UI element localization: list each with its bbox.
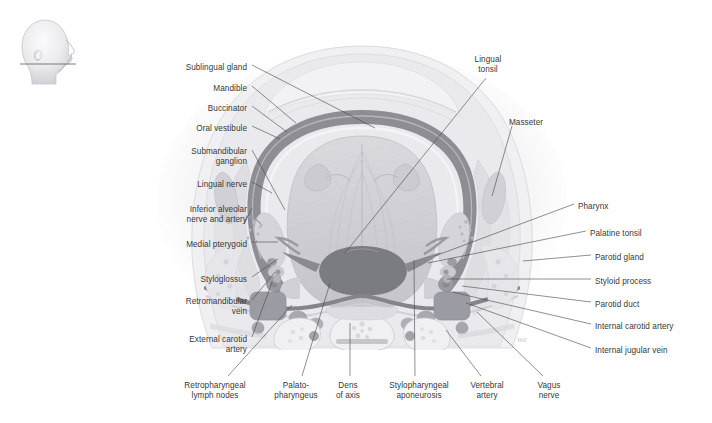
label-line: Palato- (274, 381, 317, 391)
leader-line-mandible (252, 86, 296, 123)
label-line: lymph nodes (184, 391, 245, 401)
leader-line-oral-vestibule (252, 126, 280, 139)
label-line: nerve and artery (187, 215, 247, 225)
label-inferior-alveolar-nerve-artery[interactable]: Inferior alveolarnerve and artery (187, 205, 247, 226)
label-sublingual-gland[interactable]: Sublingual gland (186, 63, 247, 73)
label-line: artery (470, 391, 503, 401)
label-line: tonsil (475, 65, 502, 75)
leader-line-lingual-tonsil (345, 78, 486, 253)
label-line: aponeurosis (389, 391, 448, 401)
leader-line-styloglossus (252, 259, 278, 277)
label-line: Styloid process (595, 277, 651, 287)
label-parotid-duct[interactable]: Parotid duct (595, 300, 639, 310)
label-line: ganglion (191, 157, 247, 167)
label-line: Styloglossus (200, 275, 247, 285)
leader-line-lingual-nerve (252, 182, 272, 193)
label-retropharyngeal-lymph-nodes[interactable]: Retropharyngeallymph nodes (184, 381, 245, 402)
label-lingual-tonsil[interactable]: Lingualtonsil (475, 55, 502, 76)
label-line: vein (186, 307, 247, 317)
leader-line-retromandibular-vein (252, 272, 275, 300)
label-internal-carotid-artery[interactable]: Internal carotid artery (595, 322, 674, 332)
label-line: artery (189, 345, 247, 355)
label-masseter[interactable]: Masseter (509, 118, 543, 128)
leader-line-pharynx (435, 204, 574, 256)
label-line: Masseter (509, 118, 543, 128)
leader-line-submandibular-ganglion (252, 150, 285, 210)
leader-line-external-carotid-artery (252, 282, 272, 337)
label-line: Pharynx (578, 202, 608, 212)
label-buccinator[interactable]: Buccinator (208, 104, 247, 114)
label-line: Dens (336, 381, 360, 391)
label-line: of axis (336, 391, 360, 401)
label-line: Submandibular (191, 147, 247, 157)
label-line: Palatine tonsil (590, 229, 642, 239)
anatomy-figure: Voll Sublingual glandMandibleBuccinatorO… (0, 0, 712, 423)
label-palatopharyngeus[interactable]: Palato-pharyngeus (274, 381, 317, 402)
label-line: Buccinator (208, 104, 247, 114)
label-line: pharyngeus (274, 391, 317, 401)
label-line: Parotid gland (595, 253, 644, 263)
label-oral-vestibule[interactable]: Oral vestibule (196, 124, 247, 134)
label-line: Mandible (213, 84, 247, 94)
leader-line-sublingual-gland (252, 65, 375, 128)
label-line: Stylopharyngeal (389, 381, 448, 391)
leader-line-palatopharyngeus (302, 283, 330, 376)
label-lingual-nerve[interactable]: Lingual nerve (197, 180, 247, 190)
leader-line-palatine-tonsil (428, 231, 586, 263)
label-parotid-gland[interactable]: Parotid gland (595, 253, 644, 263)
label-stylopharyngeal-aponeurosis[interactable]: Stylopharyngealaponeurosis (389, 381, 448, 402)
label-mandible[interactable]: Mandible (213, 84, 247, 94)
label-line: Inferior alveolar (187, 205, 247, 215)
label-line: Oral vestibule (196, 124, 247, 134)
label-pharynx[interactable]: Pharynx (578, 202, 608, 212)
label-palatine-tonsil[interactable]: Palatine tonsil (590, 229, 642, 239)
label-line: External carotid (189, 335, 247, 345)
label-vertebral-artery[interactable]: Vertebralartery (470, 381, 503, 402)
label-line: Internal jugular vein (595, 346, 668, 356)
label-styloglossus[interactable]: Styloglossus (200, 275, 247, 285)
label-line: Sublingual gland (186, 63, 247, 73)
leader-line-vertebral-artery (446, 330, 481, 376)
label-line: Vertebral (470, 381, 503, 391)
leader-line-masseter (492, 126, 512, 196)
leader-line-vagus-nerve (477, 312, 543, 376)
label-internal-jugular-vein[interactable]: Internal jugular vein (595, 346, 668, 356)
label-line: Lingual nerve (197, 180, 247, 190)
leader-line-parotid-gland (523, 255, 591, 261)
label-line: Retropharyngeal (184, 381, 245, 391)
label-medial-pterygoid[interactable]: Medial pterygoid (186, 240, 247, 250)
leader-line-stylopharyngeal-aponeurosis (414, 260, 415, 376)
label-styloid-process[interactable]: Styloid process (595, 277, 651, 287)
label-line: Medial pterygoid (186, 240, 247, 250)
label-line: Lingual (475, 55, 502, 65)
label-line: Vagus (538, 381, 561, 391)
label-external-carotid-artery[interactable]: External carotidartery (189, 335, 247, 356)
label-line: Retromandibular (186, 297, 247, 307)
label-retromandibular-vein[interactable]: Retromandibularvein (186, 297, 247, 318)
label-line: Internal carotid artery (595, 322, 674, 332)
label-submandibular-ganglion[interactable]: Submandibularganglion (191, 147, 247, 168)
label-dens-of-axis[interactable]: Densof axis (336, 381, 360, 402)
leader-line-parotid-duct (462, 286, 591, 302)
label-line: nerve (538, 391, 561, 401)
label-vagus-nerve[interactable]: Vagusnerve (538, 381, 561, 402)
label-line: Parotid duct (595, 300, 639, 310)
leader-line-internal-carotid-artery (452, 292, 591, 324)
